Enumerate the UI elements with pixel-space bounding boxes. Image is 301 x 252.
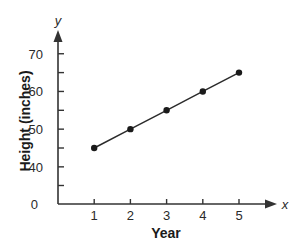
data-point (236, 69, 242, 75)
x-axis-arrow-icon (265, 200, 277, 209)
y-axis-variable-label: y (54, 13, 63, 28)
x-tick-label: 3 (163, 208, 170, 223)
data-point (163, 107, 169, 113)
data-point (127, 126, 133, 132)
data-point (200, 88, 206, 94)
x-tick-label: 2 (127, 208, 134, 223)
line-chart: 12345040506070 Year Height (inches) x y (0, 0, 301, 252)
x-axis-title: Year (151, 225, 181, 241)
x-tick-label: 1 (91, 208, 98, 223)
y-axis-arrow-icon (54, 30, 63, 42)
x-tick-label: 4 (199, 208, 206, 223)
axes (54, 30, 278, 209)
x-axis-variable-label: x (281, 197, 289, 212)
y-tick-label: 70 (29, 47, 43, 62)
ticks: 12345040506070 (29, 47, 243, 223)
data-point (91, 145, 97, 151)
x-tick-label: 5 (235, 208, 242, 223)
data-series (91, 69, 242, 151)
y-axis-title: Height (inches) (17, 70, 33, 171)
y-tick-label: 0 (31, 197, 38, 212)
